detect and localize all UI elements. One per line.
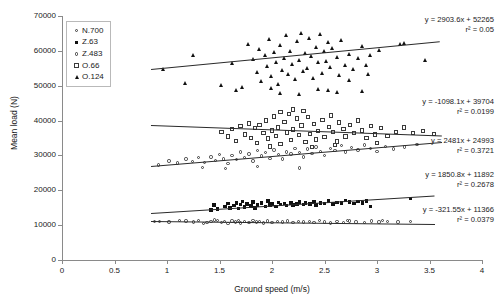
- data-point: [240, 85, 244, 89]
- data-point: [326, 88, 330, 92]
- data-point: [280, 68, 284, 72]
- data-point: [183, 81, 187, 85]
- equation-z-63: y = 1850.8x + 11892r² = 0.2678: [425, 170, 494, 189]
- data-point: [377, 48, 381, 52]
- legend-label: O.124: [82, 73, 104, 81]
- data-point: [234, 88, 238, 92]
- data-point: [324, 59, 328, 63]
- data-point: [368, 53, 372, 57]
- plot-area: 010000200003000040000500006000070000 00.…: [62, 16, 482, 260]
- data-point: [326, 40, 330, 44]
- data-point: [343, 63, 347, 67]
- data-point: [316, 87, 320, 91]
- y-tick-label: 60000: [34, 47, 56, 55]
- data-point: [311, 76, 315, 80]
- x-tick: [62, 260, 63, 264]
- x-tick-label: 4: [480, 267, 484, 275]
- data-point: [347, 52, 351, 56]
- legend-item-n-700: N.700: [71, 25, 104, 37]
- x-tick-label: 3.5: [424, 267, 435, 275]
- legend-label: Z.63: [82, 38, 98, 46]
- data-point: [314, 45, 318, 49]
- data-point: [335, 90, 339, 94]
- x-tick-label: 1: [165, 267, 169, 275]
- legend-item-z-63: Z.63: [71, 37, 104, 49]
- data-point: [278, 91, 282, 95]
- equation-o-66: y = -1098.1x + 39704r² = 0.0199: [422, 97, 494, 116]
- data-point: [309, 54, 313, 58]
- data-point: [274, 60, 278, 64]
- data-point: [255, 70, 259, 74]
- x-tick-label: 0: [60, 267, 64, 275]
- data-point: [293, 77, 297, 81]
- x-axis-title: Ground speed (m/s): [62, 284, 482, 294]
- y-tick-label: 0: [52, 256, 56, 264]
- data-point: [356, 56, 360, 60]
- data-point: [278, 43, 282, 47]
- data-point: [263, 53, 267, 57]
- data-point: [347, 78, 351, 82]
- y-tick-label: 50000: [34, 82, 56, 90]
- data-point: [364, 63, 368, 67]
- x-tick-label: 3: [375, 267, 379, 275]
- scatter-chart: 010000200003000040000500006000070000 00.…: [0, 0, 502, 298]
- data-point: [297, 92, 301, 96]
- legend-marker-icon: [71, 52, 82, 55]
- legend-item-o-66: O.66: [71, 60, 104, 72]
- x-tick-label: 0.5: [109, 267, 120, 275]
- y-axis-title: Mean load (N): [9, 63, 19, 183]
- legend-marker-icon: [71, 63, 82, 67]
- equation-text: y = -1098.1x + 39704: [422, 97, 494, 106]
- r-squared-text: r² = 0.0199: [422, 107, 494, 117]
- data-point: [286, 72, 290, 76]
- data-point: [299, 31, 303, 35]
- equation-text: y = 2903.6x + 52265: [425, 15, 494, 24]
- data-point: [290, 62, 294, 66]
- r-squared-text: r² = 0.2678: [425, 180, 494, 190]
- legend-label: N.700: [82, 27, 103, 35]
- legend-label: Z.483: [82, 50, 102, 58]
- data-point: [316, 60, 320, 64]
- data-point: [259, 79, 263, 83]
- x-tick-label: 2.5: [319, 267, 330, 275]
- equation-text: y = 1850.8x + 11892: [425, 170, 494, 179]
- data-point: [360, 89, 364, 93]
- x-tick: [430, 260, 431, 264]
- equation-text: y = 2481x + 24993: [431, 136, 494, 145]
- legend-marker-icon: [71, 75, 82, 79]
- data-point: [267, 37, 271, 41]
- x-tick: [325, 260, 326, 264]
- data-point: [366, 72, 370, 76]
- r-squared-text: r² = 0.0379: [423, 215, 494, 225]
- data-point: [320, 71, 324, 75]
- data-point: [191, 53, 195, 57]
- data-point: [276, 82, 280, 86]
- data-point: [360, 44, 364, 48]
- data-point: [246, 42, 250, 46]
- data-point: [318, 32, 322, 36]
- data-point: [301, 69, 305, 73]
- legend-label: O.66: [82, 62, 99, 70]
- data-point: [219, 83, 223, 87]
- data-point: [257, 47, 261, 51]
- y-tick-label: 40000: [34, 117, 56, 125]
- data-point: [269, 74, 273, 78]
- data-point: [305, 66, 309, 70]
- data-point: [307, 36, 311, 40]
- x-tick-label: 2: [270, 267, 274, 275]
- equation-o-124: y = 2903.6x + 52265r² = 0.05: [425, 15, 494, 34]
- x-tick: [272, 260, 273, 264]
- r-squared-text: r² = 0.3721: [431, 146, 494, 156]
- data-point: [423, 58, 427, 62]
- data-point: [272, 50, 276, 54]
- r-squared-text: r² = 0.05: [425, 25, 494, 35]
- equation-n-700: y = -321.55x + 11366r² = 0.0379: [423, 205, 494, 224]
- x-tick: [167, 260, 168, 264]
- data-point: [351, 67, 355, 71]
- data-point: [339, 38, 343, 42]
- data-point: [297, 58, 301, 62]
- x-tick-label: 1.5: [214, 267, 225, 275]
- legend-item-o-124: O.124: [71, 71, 104, 83]
- data-point: [330, 46, 334, 50]
- y-tick-label: 20000: [34, 186, 56, 194]
